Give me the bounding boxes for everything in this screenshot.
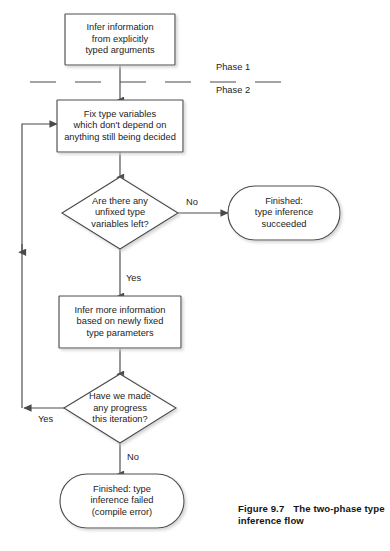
node-fix-type-variables-shape [57,100,183,152]
edge-label-unfixed-no: No [186,197,198,208]
node-succeeded-shape [228,186,340,240]
edge-label-progress-yes: Yes [38,414,53,425]
node-infer-more-shape [59,296,181,348]
flowchart-figure: Infer information from explicitly typed … [0,0,390,551]
flowchart-canvas [0,0,390,551]
phase-1-label: Phase 1 [216,62,250,73]
node-progress-check-shape [64,374,176,443]
figure-title-line1: The two-phase type [293,503,384,514]
phase-2-label: Phase 2 [216,85,250,96]
edge-progress-yes-loop-back [22,124,57,408]
node-infer-explicit-shape [65,14,175,65]
edge-label-progress-no: No [127,452,139,463]
node-failed-shape [60,474,184,528]
figure-title-line2: inference flow [238,515,388,527]
edge-label-unfixed-yes: Yes [126,273,141,284]
node-unfixed-check-shape [62,177,178,249]
figure-number: Figure 9.7 [238,503,284,514]
figure-caption: Figure 9.7The two-phase type inference f… [238,503,388,528]
